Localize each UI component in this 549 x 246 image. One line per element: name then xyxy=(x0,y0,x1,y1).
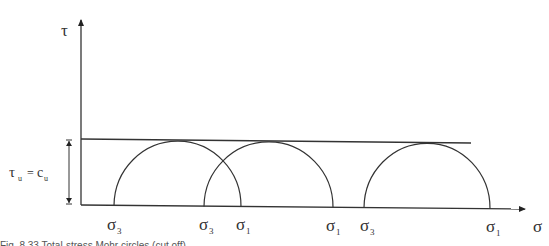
mohr-circle-2 xyxy=(204,142,333,208)
svg-text:σ: σ xyxy=(486,217,495,236)
circle-3-sigma3-label: σ 3 xyxy=(360,216,375,237)
svg-text:σ: σ xyxy=(199,215,208,234)
svg-text:=: = xyxy=(27,166,34,180)
mohr-circle-diagram: τ σ τ u = c u σ 3 σ 3 σ 1 σ 1 σ 3 σ 1 xyxy=(0,0,549,246)
circle-1-sigma1-label: σ 1 xyxy=(236,215,251,236)
circle-2-sigma1-label: σ 1 xyxy=(326,216,341,237)
svg-text:1: 1 xyxy=(246,226,251,236)
x-axis-label: σ xyxy=(533,217,542,236)
y-axis-label: τ xyxy=(61,21,68,40)
envelope-label: τ u = c u xyxy=(9,164,48,183)
cu-dimension-arrow xyxy=(66,140,72,204)
svg-text:σ: σ xyxy=(360,216,369,235)
figure-caption-cut-off: Fig. 8.33 Total-stress Mohr circles (cut… xyxy=(0,238,186,246)
svg-text:σ: σ xyxy=(236,215,245,234)
svg-text:τ: τ xyxy=(9,164,15,180)
circle-3-sigma1-label: σ 1 xyxy=(486,217,501,238)
svg-text:3: 3 xyxy=(117,226,122,236)
svg-text:u: u xyxy=(44,174,48,183)
svg-text:c: c xyxy=(37,165,43,180)
svg-text:1: 1 xyxy=(496,228,501,238)
svg-text:3: 3 xyxy=(370,227,375,237)
svg-text:3: 3 xyxy=(209,226,214,236)
mohr-circle-3 xyxy=(364,143,490,209)
circle-2-sigma3-label: σ 3 xyxy=(199,215,214,236)
svg-text:σ: σ xyxy=(107,215,116,234)
circle-1-sigma3-label: σ 3 xyxy=(107,215,122,236)
x-axis xyxy=(81,205,525,209)
mohr-circle-1 xyxy=(114,141,241,207)
svg-text:u: u xyxy=(18,174,22,183)
svg-text:1: 1 xyxy=(336,227,341,237)
svg-text:σ: σ xyxy=(326,216,335,235)
